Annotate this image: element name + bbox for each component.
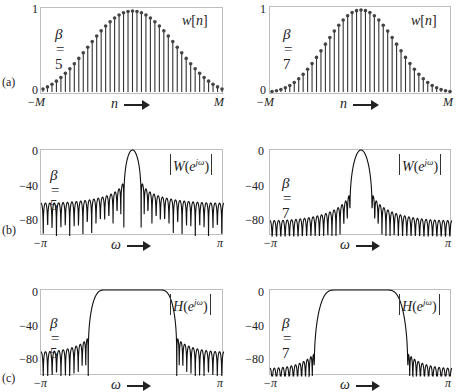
x-tick-neg-pi: −π (33, 237, 47, 249)
y-tick-minus40: −40 (234, 320, 264, 332)
x-tick-pi: π (217, 237, 223, 249)
series-label-h-mag: H(ejω) (399, 294, 440, 315)
x-tick-neg-pi: −π (33, 377, 47, 389)
x-tick-neg-pi: −π (263, 377, 277, 389)
x-tick-neg-m: −M (256, 96, 274, 108)
x-axis-arrow-icon (356, 385, 378, 387)
y-tick-0db: 0 (8, 286, 38, 298)
series-label-w-mag: W(ejω) (399, 154, 441, 175)
x-axis-arrow-icon (353, 104, 377, 106)
x-axis-label-n: n (340, 97, 347, 111)
y-tick-minus40: −40 (234, 180, 264, 192)
series-label-w-mag: W(ejω) (170, 154, 212, 175)
y-tick-minus80: −80 (8, 214, 38, 226)
x-tick-m: M (443, 96, 453, 108)
x-axis-arrow-icon (124, 104, 148, 106)
y-tick-1: 1 (8, 3, 38, 15)
y-tick-minus40: −40 (8, 320, 38, 332)
y-tick-minus40: −40 (8, 180, 38, 192)
x-tick-pi: π (445, 237, 451, 249)
x-axis-label-omega: ω (340, 238, 350, 252)
x-tick-neg-pi: −π (263, 237, 277, 249)
series-label-w-n: w[n] (182, 13, 208, 29)
x-axis-label-omega: ω (111, 238, 121, 252)
y-tick-0db: 0 (234, 286, 264, 298)
beta-label: β = 7 (282, 176, 292, 221)
row-label-c: (c) (2, 372, 15, 384)
series-label-h-mag: H(ejω) (170, 294, 211, 315)
beta-label: β = 5 (50, 168, 60, 213)
beta-label: β = 7 (283, 27, 293, 72)
beta-label: β = 7 (282, 316, 292, 361)
beta-label: β = 5 (50, 316, 60, 361)
y-tick-1: 1 (236, 3, 266, 15)
x-tick-m: M (214, 96, 224, 108)
beta-label: β = 5 (55, 27, 65, 72)
x-axis-arrow-icon (356, 245, 378, 247)
x-axis-label-omega: ω (111, 378, 121, 392)
x-axis-label-omega: ω (340, 378, 350, 392)
y-tick-0db: 0 (234, 145, 264, 157)
y-tick-minus80: −80 (234, 353, 264, 365)
series-label-w-n: w[n] (411, 13, 437, 29)
x-axis-arrow-icon (127, 385, 149, 387)
x-tick-pi: π (445, 377, 451, 389)
x-tick-pi: π (217, 377, 223, 389)
x-axis-label-n: n (111, 97, 118, 111)
x-axis-arrow-icon (127, 245, 149, 247)
x-tick-neg-m: −M (27, 96, 45, 108)
y-tick-minus80: −80 (8, 353, 38, 365)
y-tick-0db: 0 (8, 145, 38, 157)
y-tick-minus80: −80 (234, 214, 264, 226)
